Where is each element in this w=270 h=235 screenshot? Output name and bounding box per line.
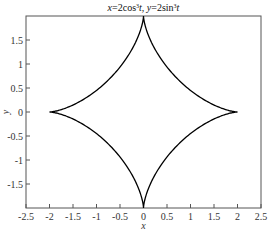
chart-title: x=2cos3t, y=2sin3t — [107, 2, 180, 13]
y-axis-label: y — [0, 109, 11, 115]
x-tick-label: 2 — [235, 211, 240, 222]
x-tick-label: -1 — [92, 211, 100, 222]
plot-frame — [26, 16, 261, 208]
x-tick-label: 1.5 — [208, 211, 221, 222]
x-tick-label: 1 — [188, 211, 193, 222]
x-tick-label: -0.5 — [112, 211, 128, 222]
y-tick-label: 0.5 — [11, 83, 24, 94]
x-tick-label: 2.5 — [255, 211, 268, 222]
y-tick-label: -0.5 — [7, 131, 23, 142]
astroid-curve — [50, 16, 238, 208]
x-axis-label: x — [140, 220, 146, 231]
y-tick-label: 0 — [18, 107, 23, 118]
x-tick-label: -1.5 — [65, 211, 81, 222]
x-tick-label: 0.5 — [161, 211, 174, 222]
y-tick-label: -1 — [15, 155, 23, 166]
x-tick-label: -2 — [45, 211, 53, 222]
y-tick-label: 1.5 — [11, 35, 24, 46]
y-tick-label: 1 — [18, 59, 23, 70]
y-tick-label: -1.5 — [7, 179, 23, 190]
astroid-chart: x=2cos3t, y=2sin3t -2.5-2-1.5-1-0.500.51… — [0, 0, 270, 235]
x-tick-label: -2.5 — [18, 211, 34, 222]
